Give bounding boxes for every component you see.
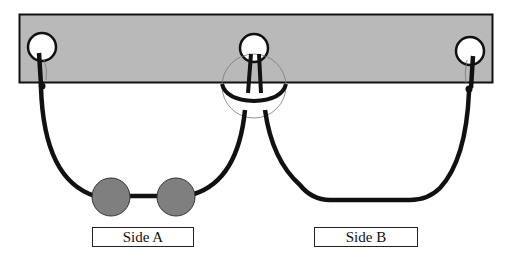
side-b-cord	[265, 92, 469, 200]
bar-and-cord-diagram	[0, 0, 509, 262]
right-cord-knot	[466, 86, 473, 93]
left-hole	[28, 33, 56, 61]
middle-loop	[222, 84, 286, 101]
middle-hole	[240, 34, 268, 62]
side-a-cord-right	[194, 110, 245, 194]
side-a-cord-left	[41, 88, 95, 196]
side-a-label: Side A	[92, 227, 194, 247]
bead-1	[92, 178, 130, 216]
right-hole	[456, 37, 484, 65]
bead-2	[157, 178, 195, 216]
middle-strand-right	[259, 54, 261, 93]
side-b-label: Side B	[314, 227, 418, 247]
right-cord-end	[471, 56, 473, 88]
left-cord-end	[39, 53, 41, 85]
